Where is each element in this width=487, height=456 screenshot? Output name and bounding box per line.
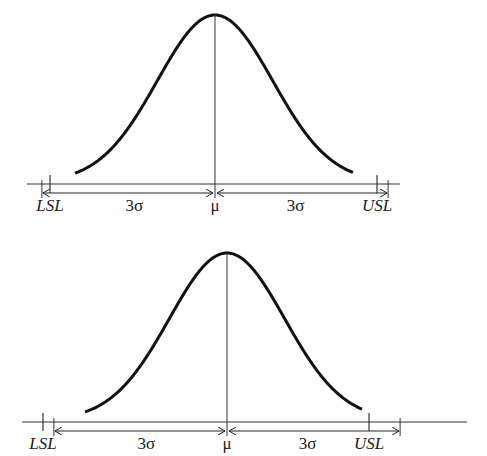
- process-capability-diagram: LSLUSLμ3σ3σ LSLUSLμ3σ3σ: [0, 0, 487, 456]
- lsl-label: LSL: [28, 434, 56, 453]
- diagram-shifted: LSLUSLμ3σ3σ: [22, 253, 467, 453]
- lsl-label: LSL: [35, 196, 63, 215]
- right-sigma-label: 3σ: [299, 434, 317, 453]
- diagram-centered: LSLUSLμ3σ3σ: [27, 15, 400, 215]
- left-sigma-label: 3σ: [126, 196, 144, 215]
- usl-label: USL: [362, 196, 392, 215]
- left-sigma-label: 3σ: [138, 434, 156, 453]
- mean-label: μ: [210, 196, 219, 215]
- normal-curve: [85, 253, 362, 412]
- usl-label: USL: [354, 434, 384, 453]
- normal-curve: [75, 15, 353, 173]
- mean-label: μ: [222, 434, 231, 453]
- right-sigma-label: 3σ: [287, 196, 305, 215]
